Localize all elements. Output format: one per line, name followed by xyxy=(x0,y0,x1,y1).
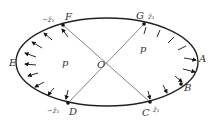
point-f xyxy=(61,23,65,27)
label-d: D xyxy=(68,106,77,117)
label-e: E xyxy=(8,57,17,68)
label-c: C xyxy=(142,107,150,118)
label-f: F xyxy=(64,11,73,22)
label-p-left: p xyxy=(62,57,69,68)
point-g xyxy=(142,22,146,26)
point-c xyxy=(148,100,152,104)
label-o: O xyxy=(97,59,105,70)
label-z-d: −z̄₁ xyxy=(47,107,60,115)
line-g-d xyxy=(68,24,144,103)
label-p-right: p xyxy=(140,43,147,54)
ellipse-diagram: F G A B C D E O p p −z̄₁ z̄₁ −z̄₁ z̄₁ xyxy=(0,0,212,123)
label-b: B xyxy=(183,82,191,93)
label-g: G xyxy=(136,10,144,21)
point-d xyxy=(66,101,70,105)
label-z-g: z̄₁ xyxy=(147,13,155,21)
label-a: A xyxy=(198,53,206,64)
label-z-c: z̄₁ xyxy=(152,106,160,114)
point-b xyxy=(179,82,183,86)
label-z-f: −z̄₁ xyxy=(42,16,55,24)
